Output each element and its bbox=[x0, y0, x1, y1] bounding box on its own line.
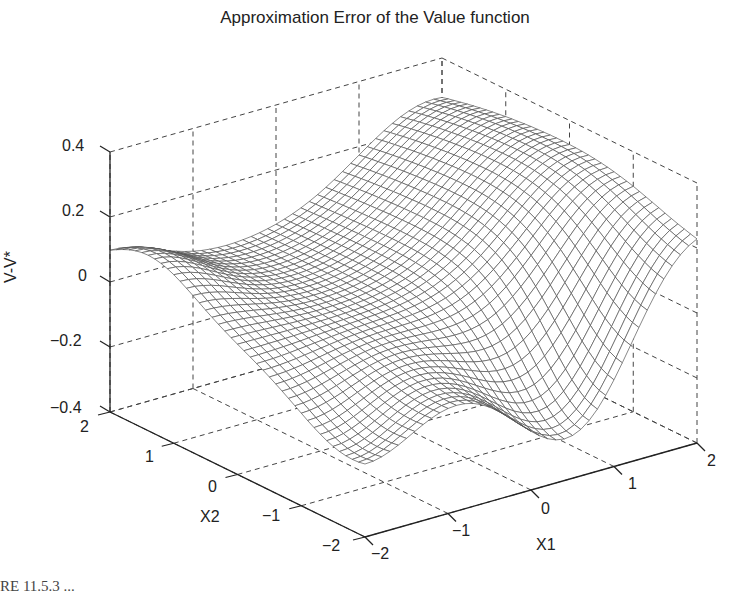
x2-tick-mark bbox=[289, 506, 301, 509]
x2-tick-mark bbox=[98, 412, 110, 415]
x1-tick: 1 bbox=[628, 475, 637, 493]
error-surface-mesh bbox=[110, 97, 697, 464]
x2-tick-mark bbox=[162, 443, 174, 446]
x1-tick-mark bbox=[448, 514, 456, 522]
x2-tick: 1 bbox=[145, 448, 154, 466]
x1-tick-mark bbox=[531, 490, 539, 498]
x2-tick: −2 bbox=[322, 537, 340, 555]
x2-tick: −1 bbox=[262, 507, 280, 525]
surface-plot bbox=[0, 0, 750, 593]
chart-title: Approximation Error of the Value functio… bbox=[0, 8, 750, 28]
x2-tick-mark bbox=[353, 537, 365, 540]
z-tick-mark bbox=[100, 276, 110, 282]
x1-tick: −2 bbox=[371, 545, 389, 563]
z-tick-mark bbox=[100, 406, 110, 412]
z-tick-mark bbox=[100, 211, 110, 217]
x2-tick: 2 bbox=[80, 418, 89, 436]
x2-tick: 0 bbox=[208, 478, 217, 496]
x1-tick-mark bbox=[365, 537, 373, 545]
figure-caption: RE 11.5.3 ... bbox=[0, 578, 75, 593]
x2-tick-mark bbox=[226, 475, 238, 478]
x1-tick-mark bbox=[614, 467, 622, 475]
z-tick-mark bbox=[100, 341, 110, 347]
x1-axis-label: X1 bbox=[536, 536, 556, 554]
x1-tick: −1 bbox=[452, 522, 470, 540]
z-axis-label: V-V* bbox=[2, 251, 20, 283]
z-tick: 0.4 bbox=[62, 137, 84, 155]
z-tick: 0.2 bbox=[62, 202, 84, 220]
z-tick: 0 bbox=[78, 267, 87, 285]
z-tick: −0.4 bbox=[50, 399, 82, 417]
x1-tick: 2 bbox=[707, 452, 716, 470]
z-tick: −0.2 bbox=[50, 332, 82, 350]
x2-axis-label: X2 bbox=[200, 508, 220, 526]
x1-tick-mark bbox=[697, 443, 705, 451]
x1-tick: 0 bbox=[541, 500, 550, 518]
z-tick-mark bbox=[100, 146, 110, 152]
